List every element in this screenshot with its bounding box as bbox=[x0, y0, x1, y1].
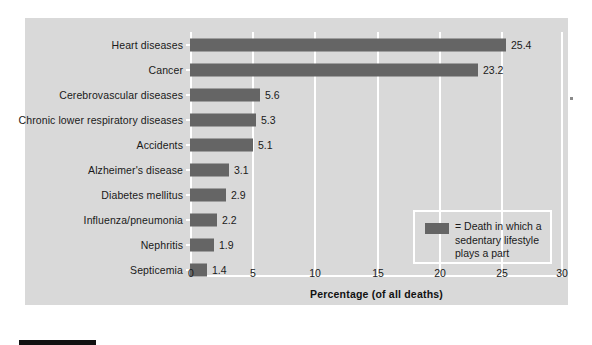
bar bbox=[190, 138, 253, 151]
category-label: Chronic lower respiratory diseases bbox=[19, 114, 183, 126]
x-tick-label-15: 15 bbox=[372, 267, 384, 279]
category-label: Cancer bbox=[149, 64, 183, 76]
x-tick-label-5: 5 bbox=[250, 267, 256, 279]
x-tick-label-10: 10 bbox=[309, 267, 321, 279]
bar-value-label: 2.2 bbox=[222, 214, 237, 226]
x-tick-label-0: 0 bbox=[188, 267, 194, 279]
bar-value-label: 3.1 bbox=[234, 164, 249, 176]
bar-value-label: 1.9 bbox=[219, 239, 234, 251]
bar bbox=[190, 113, 256, 126]
scan-artifact-speck bbox=[570, 97, 573, 100]
x-tick-label-25: 25 bbox=[496, 267, 508, 279]
bar bbox=[190, 213, 217, 226]
bar-value-label: 23.2 bbox=[483, 64, 503, 76]
category-label: Septicemia bbox=[130, 264, 183, 276]
legend-line-1: = Death in which a bbox=[455, 220, 545, 234]
legend-line-2: sedentary lifestyle bbox=[455, 234, 545, 248]
gridline-30 bbox=[561, 32, 563, 277]
bar bbox=[190, 163, 229, 176]
legend-label: = Death in which a sedentary lifestyle p… bbox=[455, 220, 545, 261]
bar bbox=[190, 38, 506, 51]
legend-swatch-icon bbox=[425, 223, 449, 234]
bar bbox=[190, 188, 226, 201]
caption-rule bbox=[19, 340, 96, 345]
bar-value-label: 25.4 bbox=[511, 39, 531, 51]
x-tick-label-30: 30 bbox=[556, 267, 568, 279]
x-axis-title: Percentage (of all deaths) bbox=[190, 288, 563, 300]
category-label: Influenza/pneumonia bbox=[84, 214, 183, 226]
category-label: Accidents bbox=[137, 139, 183, 151]
bar-value-label: 1.4 bbox=[212, 264, 227, 276]
x-tick-label-20: 20 bbox=[434, 267, 446, 279]
category-label: Heart diseases bbox=[112, 39, 183, 51]
bar-value-label: 2.9 bbox=[231, 189, 246, 201]
bar-value-label: 5.6 bbox=[265, 89, 280, 101]
category-label: Alzheimer's disease bbox=[88, 164, 183, 176]
category-label: Cerebrovascular diseases bbox=[59, 89, 183, 101]
bar bbox=[190, 63, 478, 76]
bar-chart-figure: Heart diseases 25.4 Cancer 23.2 Cerebrov… bbox=[25, 18, 568, 305]
category-label: Nephritis bbox=[141, 239, 183, 251]
legend-line-3: plays a part bbox=[455, 247, 545, 261]
bar-value-label: 5.1 bbox=[258, 139, 273, 151]
category-label: Diabetes mellitus bbox=[101, 189, 183, 201]
legend: = Death in which a sedentary lifestyle p… bbox=[413, 210, 552, 264]
bar bbox=[190, 238, 214, 251]
bar-value-label: 5.3 bbox=[261, 114, 276, 126]
bar bbox=[190, 88, 260, 101]
